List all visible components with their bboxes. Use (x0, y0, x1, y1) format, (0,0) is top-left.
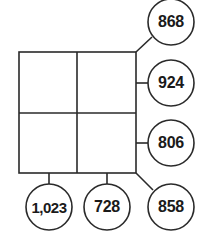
value-728: 728 (84, 184, 130, 230)
diagram-canvas: 868 924 806 1,023 728 858 (0, 0, 206, 250)
value-1023: 1,023 (26, 184, 72, 230)
value-858: 858 (148, 184, 194, 230)
value-924: 924 (148, 60, 194, 106)
value-868: 868 (148, 0, 194, 45)
value-806: 806 (148, 120, 194, 166)
